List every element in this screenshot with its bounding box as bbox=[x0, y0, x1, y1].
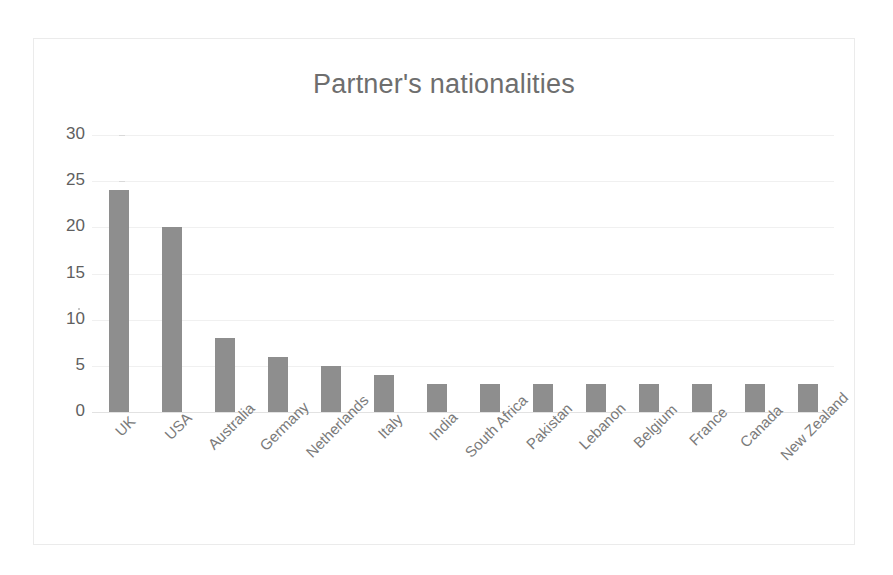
y-tick-label: 0 bbox=[39, 401, 85, 421]
y-tick-label: 20 bbox=[39, 216, 85, 236]
bar-slot[interactable] bbox=[675, 135, 728, 412]
bar[interactable] bbox=[533, 384, 553, 412]
bar-slot[interactable] bbox=[781, 135, 834, 412]
bar-slot[interactable] bbox=[357, 135, 410, 412]
bar[interactable] bbox=[215, 338, 235, 412]
bar-slot[interactable] bbox=[304, 135, 357, 412]
x-tick-label: Italy bbox=[374, 410, 405, 441]
bar-slot[interactable] bbox=[92, 135, 145, 412]
chart-page: Partner's nationalities 051015202530 UKU… bbox=[0, 0, 893, 575]
x-label-slot: USA bbox=[145, 414, 198, 544]
bar[interactable] bbox=[268, 357, 288, 412]
x-tick-label: USA bbox=[161, 409, 195, 443]
x-label-slot: France bbox=[675, 414, 728, 544]
x-label-slot: Germany bbox=[251, 414, 304, 544]
x-label-slot: India bbox=[410, 414, 463, 544]
x-label-slot: Australia bbox=[198, 414, 251, 544]
bar[interactable] bbox=[745, 384, 765, 412]
y-tick-label: 15 bbox=[39, 263, 85, 283]
y-axis: 051015202530 bbox=[33, 135, 85, 412]
bar[interactable] bbox=[639, 384, 659, 412]
bar-slot[interactable] bbox=[251, 135, 304, 412]
bar-slot[interactable] bbox=[463, 135, 516, 412]
x-label-slot: Pakistan bbox=[516, 414, 569, 544]
y-tick-label: 10 bbox=[39, 309, 85, 329]
x-label-slot: Lebanon bbox=[569, 414, 622, 544]
bar-slot[interactable] bbox=[569, 135, 622, 412]
bar-series bbox=[92, 135, 834, 412]
bar[interactable] bbox=[692, 384, 712, 412]
x-label-slot: UK bbox=[92, 414, 145, 544]
bar-slot[interactable] bbox=[145, 135, 198, 412]
bar[interactable] bbox=[480, 384, 500, 412]
x-label-slot: South Africa bbox=[463, 414, 516, 544]
x-tick-label: India bbox=[425, 408, 460, 443]
y-tick-label: 30 bbox=[39, 124, 85, 144]
bar[interactable] bbox=[321, 366, 341, 412]
y-tick-label: 5 bbox=[39, 355, 85, 375]
x-tick-label: UK bbox=[111, 413, 138, 440]
x-axis-labels: UKUSAAustraliaGermanyNetherlandsItalyInd… bbox=[92, 414, 834, 544]
bar-slot[interactable] bbox=[728, 135, 781, 412]
x-label-slot: New Zealand bbox=[781, 414, 834, 544]
stray-dot-artifact bbox=[78, 308, 80, 310]
x-label-slot: Italy bbox=[357, 414, 410, 544]
bar[interactable] bbox=[798, 384, 818, 412]
bar[interactable] bbox=[109, 190, 129, 412]
chart-title: Partner's nationalities bbox=[34, 69, 854, 100]
bar-slot[interactable] bbox=[198, 135, 251, 412]
bar-slot[interactable] bbox=[516, 135, 569, 412]
bar[interactable] bbox=[374, 375, 394, 412]
bar[interactable] bbox=[162, 227, 182, 412]
bar[interactable] bbox=[427, 384, 447, 412]
x-label-slot: Canada bbox=[728, 414, 781, 544]
bar-slot[interactable] bbox=[622, 135, 675, 412]
bar[interactable] bbox=[586, 384, 606, 412]
x-label-slot: Belgium bbox=[622, 414, 675, 544]
y-tick-label: 25 bbox=[39, 170, 85, 190]
x-label-slot: Netherlands bbox=[304, 414, 357, 544]
bar-slot[interactable] bbox=[410, 135, 463, 412]
